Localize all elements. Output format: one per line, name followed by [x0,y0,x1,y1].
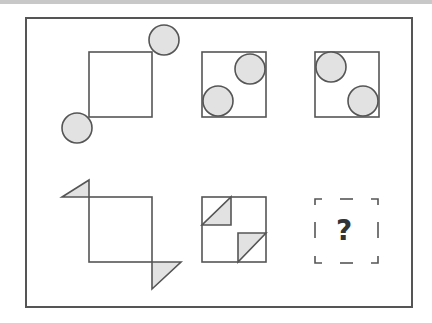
triangle-shape [202,197,231,225]
triangle-shape [238,233,266,262]
question-mark: ? [311,197,377,263]
square-shape [89,52,152,117]
circle-shape [348,86,378,116]
circle-shape [316,52,346,82]
circle-shape [62,113,92,143]
square-shape [89,197,152,262]
cell-r2c1 [62,180,181,289]
circle-shape [203,86,233,116]
circle-shape [149,25,179,55]
triangle-shape [152,262,181,289]
cell-r1c1 [62,25,179,143]
puzzle-diagram [0,0,432,323]
triangle-shape [62,180,89,197]
cell-r2c2 [202,197,266,262]
circle-shape [235,54,265,84]
square-shape [202,197,266,262]
cell-r1c3 [315,52,379,117]
cell-r1c2 [202,52,266,117]
